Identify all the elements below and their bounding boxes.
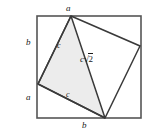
geometry-figure-panel: a b a b c c c√2 xyxy=(0,0,150,134)
radicand-value: 2 xyxy=(88,53,94,64)
figure-drawing xyxy=(0,0,150,134)
left-lower-side-label-a: a xyxy=(26,93,31,102)
bottom-side-label-b: b xyxy=(82,121,87,130)
left-upper-side-label-b: b xyxy=(26,38,31,47)
leg-lower-label-c: c xyxy=(66,91,70,99)
top-side-label-a: a xyxy=(66,4,71,13)
leg-upper-label-c: c xyxy=(57,42,61,50)
hypotenuse-label-c-sqrt-2: c√2 xyxy=(80,55,93,64)
